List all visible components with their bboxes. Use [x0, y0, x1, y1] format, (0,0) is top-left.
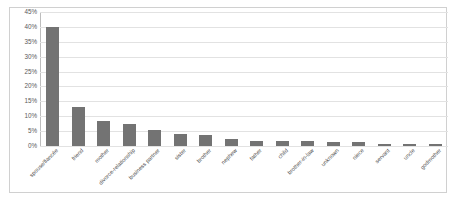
y-axis-tick-label: 10% [24, 113, 37, 119]
x-axis-tick-label: brother [196, 148, 212, 164]
x-axis-tick-labels: spouse/fiancéefriendmotherdivorce-relati… [40, 148, 448, 204]
x-axis-tick-label: friend [71, 148, 85, 162]
bar [174, 134, 187, 146]
x-axis-tick-label: godmother [419, 148, 442, 171]
y-axis-tick-label: 20% [24, 83, 37, 89]
bar [199, 135, 212, 146]
bar [301, 141, 314, 146]
x-axis-tick-label: child [277, 148, 289, 160]
x-axis-tick-label: unknown [320, 148, 340, 168]
bars-group [40, 12, 448, 146]
bar [429, 144, 442, 146]
y-axis-tick-label: 30% [24, 54, 37, 60]
bar [123, 124, 136, 146]
y-axis-tick-label: 25% [24, 68, 37, 74]
bar [378, 144, 391, 146]
x-axis-tick-label: servant [374, 148, 391, 165]
x-axis-tick-label: sister [174, 148, 187, 161]
y-axis-tick-label: 0% [28, 143, 37, 149]
x-axis-tick-label: niece [352, 148, 365, 161]
y-axis-tick-label: 40% [24, 24, 37, 30]
bar [46, 27, 59, 146]
x-axis-tick-label: brother-in-law [287, 148, 315, 176]
x-axis-tick-label: nephew [220, 148, 238, 166]
bar-chart-figure: 0%5%10%15%20%25%30%35%40%45% spouse/fian… [0, 0, 456, 208]
bar [276, 141, 289, 146]
y-axis-tick-label: 35% [24, 39, 37, 45]
x-axis-tick-label: uncle [403, 148, 416, 161]
bar [352, 142, 365, 146]
x-axis-tick-label: mother [94, 148, 110, 164]
plot-area: 0%5%10%15%20%25%30%35%40%45% [40, 12, 448, 146]
bar [250, 141, 263, 146]
y-axis-tick-label: 15% [24, 98, 37, 104]
bar [225, 139, 238, 146]
bar [403, 144, 416, 146]
y-axis-tick-label: 45% [24, 9, 37, 15]
bar [148, 130, 161, 146]
bar [97, 121, 110, 146]
bar [72, 107, 85, 146]
x-axis-tick-label: father [250, 148, 264, 162]
bar [327, 142, 340, 146]
y-axis-tick-label: 5% [28, 128, 37, 134]
